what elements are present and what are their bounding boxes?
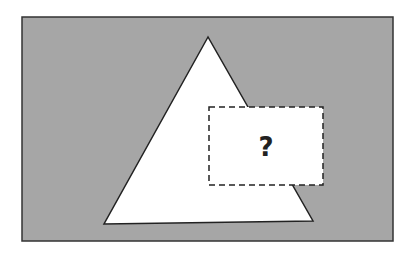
question-mark-label: ? — [258, 132, 273, 162]
diagram-canvas: ? — [0, 0, 414, 256]
